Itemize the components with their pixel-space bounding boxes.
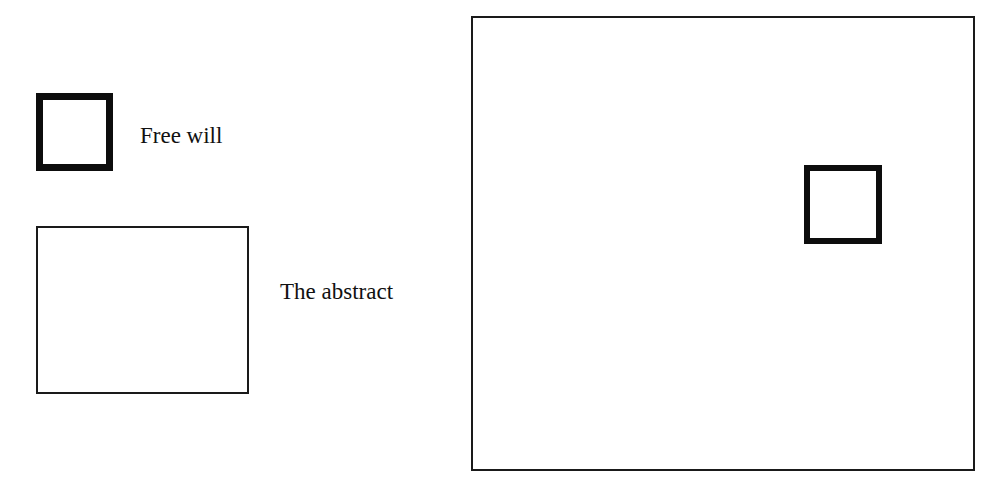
free-will-square — [36, 93, 113, 171]
abstract-rectangle — [36, 226, 249, 394]
free-will-label: Free will — [140, 124, 222, 147]
embedded-free-will-square — [804, 165, 882, 244]
diagram-canvas: Free will The abstract — [0, 0, 1008, 491]
the-abstract-label: The abstract — [280, 280, 393, 303]
outer-rectangle — [471, 16, 975, 471]
